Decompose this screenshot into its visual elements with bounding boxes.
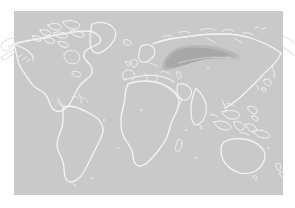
world-map-svg xyxy=(0,0,295,208)
world-map-figure xyxy=(0,0,295,208)
ocean-background-rect xyxy=(14,11,283,195)
